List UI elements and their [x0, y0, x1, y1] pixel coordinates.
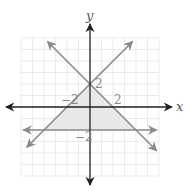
- x-axis-label: x: [176, 99, 184, 114]
- y-tick-label: 2: [95, 77, 103, 91]
- chart: x y −222−2: [0, 0, 190, 191]
- x-tick-label: 2: [114, 93, 122, 107]
- y-tick-label: −2: [75, 130, 93, 144]
- y-axis-label: y: [85, 8, 94, 23]
- x-tick-label: −2: [61, 93, 79, 107]
